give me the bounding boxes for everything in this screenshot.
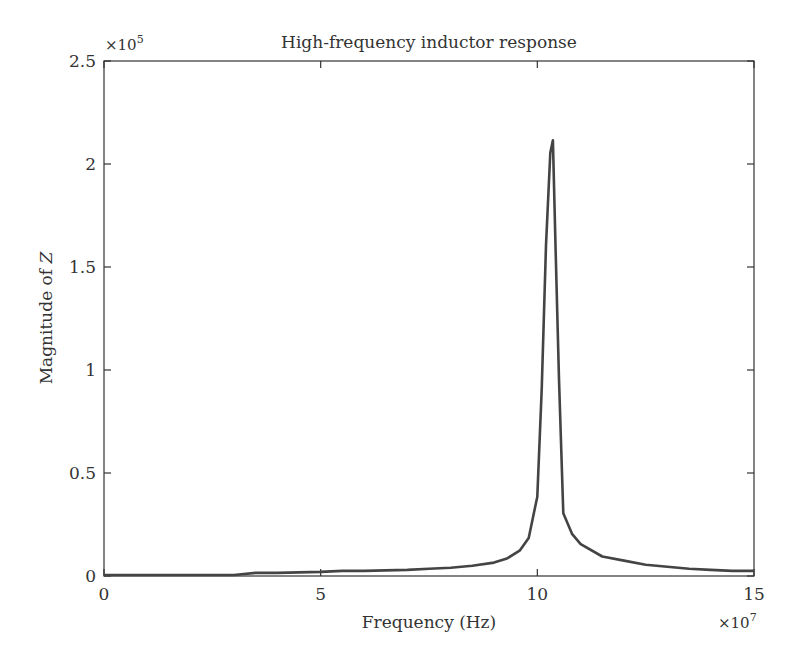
y-tick-label: 0	[85, 566, 96, 586]
y-axis-label-main: Magnitude of	[36, 263, 56, 384]
x-tick-label: 10	[527, 584, 549, 604]
data-line	[104, 140, 754, 575]
chart-title: High-frequency inductor response	[281, 32, 577, 52]
plot-area	[104, 61, 754, 576]
chart: High-frequency inductor response ×105 05…	[0, 0, 798, 667]
x-multiplier-exp: 7	[750, 611, 757, 624]
x-tick-label: 0	[99, 584, 110, 604]
y-axis-multiplier: ×105	[105, 33, 144, 54]
y-axis-label: Magnitude of Z	[36, 250, 56, 384]
y-tick-label: 2.5	[69, 51, 96, 71]
y-multiplier-exp: 5	[137, 33, 144, 46]
x-axis-label: Frequency (Hz)	[362, 612, 496, 632]
y-tick-label: 1	[85, 360, 96, 380]
axis-ticks	[104, 61, 754, 576]
y-axis-label-var: Z	[36, 250, 56, 264]
axis-tick-labels: 05101500.511.522.5	[69, 51, 765, 604]
x-multiplier-base: ×10	[718, 614, 750, 632]
y-tick-label: 1.5	[69, 257, 96, 277]
x-tick-label: 15	[743, 584, 765, 604]
y-tick-label: 0.5	[69, 463, 96, 483]
y-tick-label: 2	[85, 154, 96, 174]
y-multiplier-base: ×10	[105, 36, 137, 54]
x-tick-label: 5	[315, 584, 326, 604]
x-axis-multiplier: ×107	[718, 611, 757, 632]
